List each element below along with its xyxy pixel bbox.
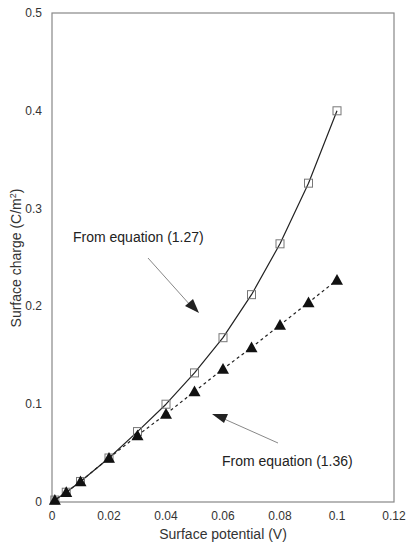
arrow-line-1-27 <box>148 258 191 306</box>
x-tick-label: 0.1 <box>329 509 346 523</box>
y-axis-title: Surface charge (C/m2) <box>8 189 24 328</box>
triangle-marker <box>217 363 229 374</box>
y-tick-label: 0 <box>35 495 42 509</box>
arrow-head-1-36 <box>212 414 228 423</box>
plot-frame <box>52 13 394 502</box>
x-tick-label: 0.08 <box>268 509 292 523</box>
y-tick-label: 0.1 <box>25 397 42 411</box>
y-tick-label: 0.5 <box>25 6 42 20</box>
x-tick-label: 0 <box>49 509 56 523</box>
arrow-line-1-36 <box>222 418 278 443</box>
triangle-marker <box>189 385 201 396</box>
triangle-marker <box>246 341 258 352</box>
x-tick-label: 0.04 <box>154 509 178 523</box>
series-equation-1-27 <box>51 107 341 504</box>
x-tick-label: 0.06 <box>211 509 235 523</box>
annotation-equation-1-27: From equation (1.27) <box>73 229 204 245</box>
chart: 00.10.20.30.40.5 00.020.040.060.080.10.1… <box>0 0 412 549</box>
plot-area-border <box>52 13 394 502</box>
x-tick-label: 0.12 <box>382 509 406 523</box>
x-tick-label: 0.02 <box>97 509 121 523</box>
triangle-marker <box>274 319 286 330</box>
y-tick-label: 0.4 <box>25 104 42 118</box>
y-tick-label: 0.2 <box>25 299 42 313</box>
triangle-marker <box>160 408 172 419</box>
x-axis-title: Surface potential (V) <box>159 526 287 542</box>
annotation-equation-1-36: From equation (1.36) <box>222 453 353 469</box>
y-axis-ticks: 00.10.20.30.40.5 <box>25 6 42 509</box>
triangle-marker <box>331 274 343 285</box>
x-axis-ticks: 00.020.040.060.080.10.12 <box>49 509 406 523</box>
triangle-marker <box>303 296 315 307</box>
y-tick-label: 0.3 <box>25 202 42 216</box>
